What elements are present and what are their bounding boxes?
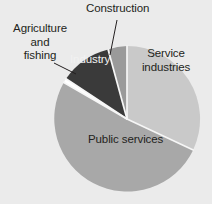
slice-label-agriculture-and-fishing: Agriculture and fishing: [2, 22, 78, 63]
slice-label-construction: Construction: [86, 2, 149, 16]
slice-label-industry: Industry: [70, 53, 110, 67]
slice-label-public-services: Public services: [88, 133, 163, 147]
slice-label-service-industries: Service industries: [135, 47, 197, 74]
pie-chart-figure: Construction Agriculture and fishing Ind…: [0, 0, 212, 204]
